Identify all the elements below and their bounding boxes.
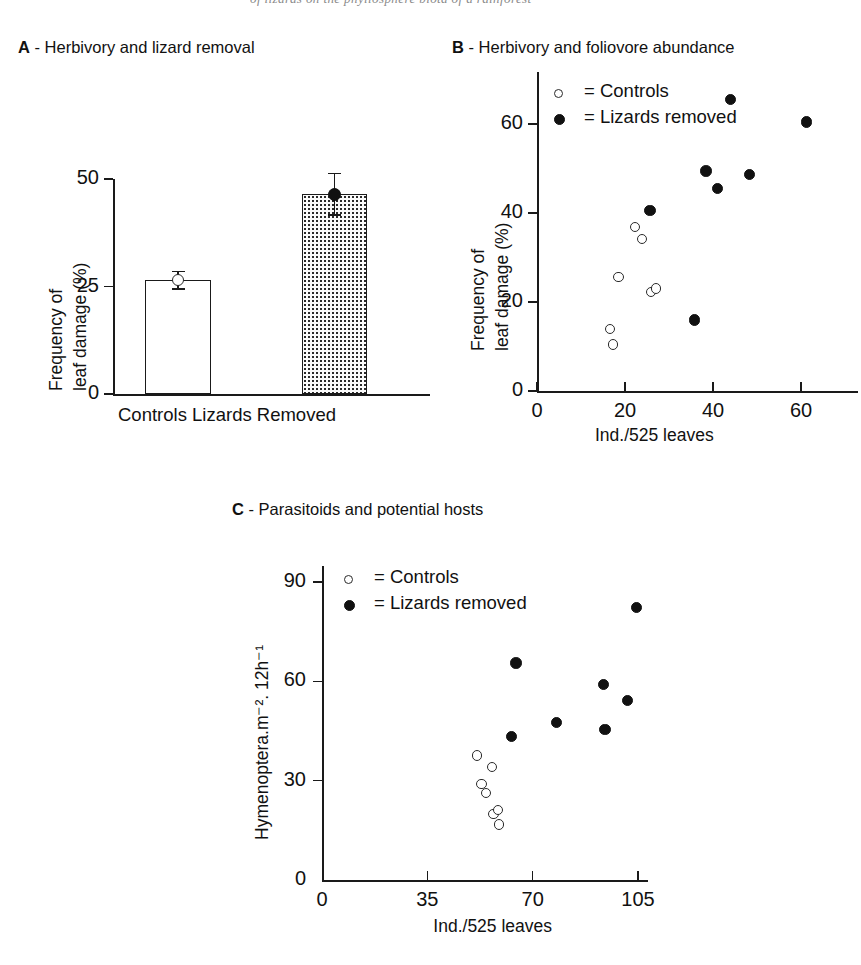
panel-c-title-text: Parasitoids and potential hosts [259, 500, 484, 518]
panel-b-y-axis-title-line2: leaf damage (%) [492, 223, 513, 351]
panel-a-y-tick-label: 50 [47, 166, 99, 189]
running-head: of lizards on the phyllosphere biota of … [250, 0, 770, 9]
panel-b-filled-circle-marker [725, 94, 737, 106]
panel-c-y-tick [313, 581, 322, 583]
panel-c-label: C [232, 500, 244, 518]
figure-canvas: of lizards on the phyllosphere biota of … [0, 0, 861, 965]
panel-c-filled-circle-marker [622, 695, 634, 707]
panel-a-error-cap-top [328, 173, 341, 175]
panel-a-y-tick [104, 393, 113, 395]
panel-b-x-tick-label: 60 [775, 399, 827, 422]
panel-b-y-tick-label: 40 [471, 200, 523, 223]
panel-b-open-circle-marker [651, 283, 662, 294]
panel-c-x-tick [532, 871, 534, 880]
panel-c-x-tick-label: 0 [296, 888, 348, 911]
filled-circle-marker [344, 600, 355, 611]
panel-c-filled-circle-marker [510, 657, 522, 669]
panel-c-x-tick-label: 35 [401, 888, 453, 911]
panel-c-filled-circle-marker [631, 602, 643, 614]
panel-c-y-tick-label: 0 [252, 867, 306, 890]
panel-c-dash: - [249, 500, 255, 518]
panel-b-y-tick-label: 0 [471, 378, 523, 401]
panel-b-x-axis-title: Ind./525 leaves [595, 425, 714, 446]
panel-b-y-tick [528, 212, 537, 214]
panel-a-title: A - Herbivory and lizard removal [18, 38, 255, 57]
panel-b-label: B [452, 38, 464, 56]
panel-b-filled-circle-marker [801, 116, 813, 128]
panel-b-x-tick [536, 382, 538, 391]
open-circle-marker [554, 89, 563, 98]
panel-b-filled-circle-marker [644, 205, 656, 217]
panel-b-x-tick [800, 382, 802, 391]
panel-c-open-circle-marker [481, 788, 492, 799]
panel-c-filled-circle-marker [599, 724, 611, 736]
panel-b-x-axis [537, 391, 858, 393]
panel-b-filled-circle-marker [700, 165, 712, 177]
panel-a-label: A [18, 38, 30, 56]
panel-b-open-circle-marker [613, 272, 624, 283]
panel-b-open-circle-marker [608, 339, 619, 350]
panel-b-x-tick-label: 0 [511, 399, 563, 422]
legend-item-label: = Controls [584, 80, 669, 102]
legend-item-label: = Lizards removed [584, 106, 737, 128]
panel-c-x-axis [322, 880, 648, 882]
panel-c-x-tick [427, 871, 429, 880]
panel-a-bar-lizards-removed [302, 194, 367, 394]
panel-b-x-tick [624, 382, 626, 391]
panel-a-error-cap-bottom [172, 288, 185, 290]
panel-a-filled-circle-marker [328, 188, 341, 201]
panel-b-x-tick-label: 40 [687, 399, 739, 422]
legend-item-label: = Lizards removed [374, 592, 527, 614]
panel-b-open-circle-marker [605, 324, 616, 335]
panel-a-y-axis-title-line2: leaf damage (%) [70, 263, 91, 391]
panel-c-open-circle-marker [494, 819, 505, 830]
panel-b-y-tick [528, 301, 537, 303]
panel-a-y-tick [104, 178, 113, 180]
filled-circle-marker [554, 114, 565, 125]
panel-b-y-axis [537, 72, 539, 391]
panel-c-x-axis-title: Ind./525 leaves [433, 916, 552, 937]
panel-b-title-text: Herbivory and foliovore abundance [479, 38, 735, 56]
panel-a-error-cap-bottom [328, 214, 341, 216]
panel-a-error-cap-top [172, 271, 185, 273]
panel-b-y-tick [528, 123, 537, 125]
panel-c-open-circle-marker [487, 762, 498, 773]
panel-a-dash: - [35, 38, 41, 56]
panel-a-y-axis [113, 179, 115, 394]
panel-c-y-tick-label: 90 [252, 569, 306, 592]
panel-b-x-tick-label: 20 [599, 399, 651, 422]
panel-b-dash: - [469, 38, 475, 56]
panel-b-open-circle-marker [630, 222, 641, 233]
panel-a-y-tick [104, 286, 113, 288]
panel-b-filled-circle-marker [712, 183, 724, 195]
panel-c-y-axis [322, 566, 324, 880]
panel-c-y-axis-title: Hymenoptera.m⁻². 12h⁻¹ [252, 645, 273, 840]
panel-a-bar-controls [145, 280, 211, 394]
panel-c-x-tick-label: 105 [612, 888, 664, 911]
panel-c-filled-circle-marker [598, 679, 610, 691]
panel-c-y-tick [313, 681, 322, 683]
panel-c-filled-circle-marker [551, 717, 563, 729]
panel-b-title: B - Herbivory and foliovore abundance [452, 38, 735, 57]
panel-b-y-tick-label: 60 [471, 111, 523, 134]
panel-a-y-axis-title-line1: Frequency of [46, 289, 67, 391]
panel-c-open-circle-marker [493, 805, 504, 816]
panel-b-y-axis-title-line1: Frequency of [468, 249, 489, 351]
panel-a-x-axis [113, 394, 430, 396]
panel-c-title: C - Parasitoids and potential hosts [232, 500, 483, 519]
panel-b-open-circle-marker [637, 234, 648, 245]
panel-c-open-circle-marker [472, 750, 483, 761]
panel-a-title-text: Herbivory and lizard removal [45, 38, 255, 56]
panel-a-open-circle-marker [172, 274, 184, 286]
panel-a-category-label: Controls Lizards Removed [118, 404, 336, 426]
panel-c-filled-circle-marker [506, 731, 518, 743]
legend-item-label: = Controls [374, 566, 459, 588]
panel-c-x-tick-label: 70 [507, 888, 559, 911]
panel-c-y-tick [313, 780, 322, 782]
panel-b-filled-circle-marker [744, 169, 756, 181]
panel-b-x-tick [712, 382, 714, 391]
panel-b-filled-circle-marker [689, 314, 701, 326]
open-circle-marker [344, 575, 353, 584]
panel-c-x-tick [637, 871, 639, 880]
